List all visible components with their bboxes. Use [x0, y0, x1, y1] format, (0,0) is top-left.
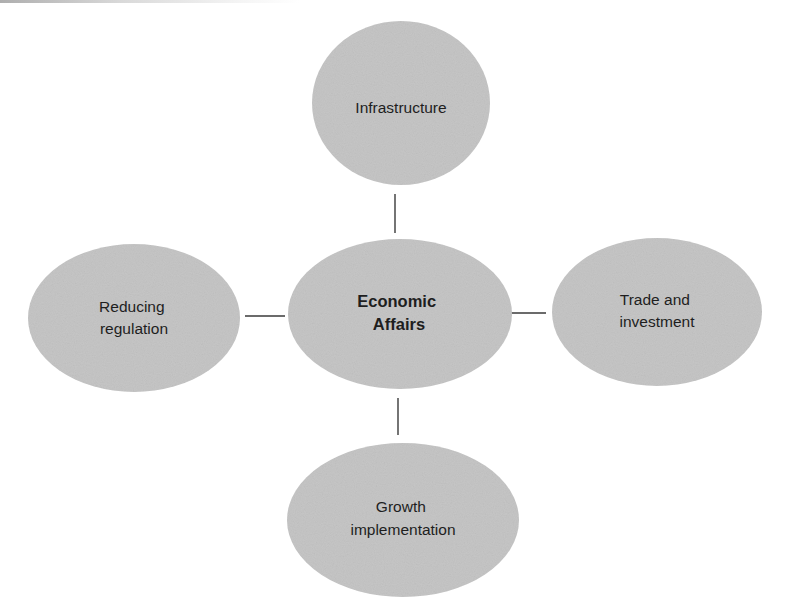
node-economic-affairs-shape: [288, 239, 512, 389]
node-infrastructure-label: Infrastructure: [355, 99, 446, 116]
node-infrastructure: Infrastructure: [312, 21, 490, 185]
node-growth-implementation-shape: [287, 443, 519, 597]
node-trade-and-investment-shape: [552, 238, 762, 386]
node-reducing-regulation: Reducing regulation: [28, 244, 240, 392]
node-growth-implementation: Growth implementation: [287, 443, 519, 597]
node-reducing-regulation-shape: [28, 244, 240, 392]
node-economic-affairs: Economic Affairs: [288, 239, 512, 389]
economic-affairs-diagram: Infrastructure Reducing regulation Econo…: [0, 0, 793, 611]
node-trade-and-investment: Trade and investment: [552, 238, 762, 386]
